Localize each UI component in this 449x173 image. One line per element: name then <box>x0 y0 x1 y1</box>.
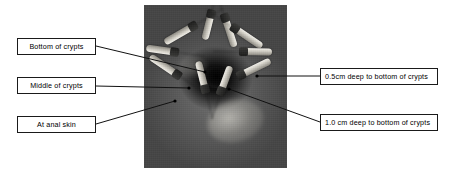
anal-canal-photograph <box>144 5 287 168</box>
photo-grain <box>144 5 287 168</box>
callout-bottom-of-crypts[interactable]: Bottom of crypts <box>17 38 96 55</box>
figure-root: Bottom of crypts Middle of crypts At ana… <box>0 0 449 173</box>
callout-label: Bottom of crypts <box>29 43 83 50</box>
callout-label: 1.0 cm deep to bottom of crypts <box>325 119 430 126</box>
callout-one-cm-deep[interactable]: 1.0 cm deep to bottom of crypts <box>320 114 438 131</box>
callout-label: 0.5cm deep to bottom of crypts <box>325 73 428 80</box>
callout-at-anal-skin[interactable]: At anal skin <box>17 116 96 133</box>
callout-label: Middle of crypts <box>30 82 83 89</box>
callout-half-cm-deep[interactable]: 0.5cm deep to bottom of crypts <box>320 68 438 85</box>
callout-label: At anal skin <box>37 121 76 128</box>
callout-middle-of-crypts[interactable]: Middle of crypts <box>17 77 96 94</box>
